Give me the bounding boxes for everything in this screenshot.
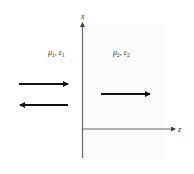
x-axis-label: x <box>80 12 85 21</box>
medium-1-label: μ1, ε1 <box>47 48 65 58</box>
medium-2-region <box>83 25 163 158</box>
z-axis-label: z <box>177 125 182 134</box>
diagram-canvas: x z μ1, ε1 μ2, ε2 <box>0 0 194 174</box>
diagram-svg: x z μ1, ε1 μ2, ε2 <box>0 0 194 174</box>
